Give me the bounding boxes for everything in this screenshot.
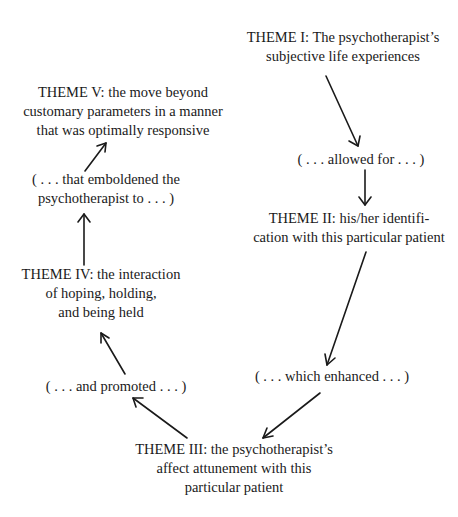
arrow-theme1-to-allowed-for-icon: [326, 76, 360, 146]
arrow-and-promoted-to-theme4-icon: [101, 333, 125, 374]
arrow-that-emboldened-to-theme5-icon: [85, 143, 106, 171]
arrow-theme3-to-and-promoted-icon: [133, 398, 187, 438]
arrow-which-enhanced-to-theme3-icon: [263, 393, 320, 438]
arrow-allowed-for-to-theme2-icon: [359, 170, 371, 205]
flow-arrows: [0, 0, 458, 517]
arrow-theme2-to-which-enhanced-icon: [325, 252, 366, 365]
arrow-theme4-to-that-emboldened-icon: [78, 214, 90, 265]
